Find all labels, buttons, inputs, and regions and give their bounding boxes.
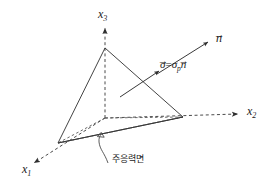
annotation-leader-line [97, 132, 108, 163]
axis-label-x1: x1 [22, 163, 31, 178]
tetrahedron-front-edge [58, 117, 183, 143]
axis-label-x2: x2 [247, 105, 256, 120]
traction-equation-label: →σ=σp→n [160, 59, 186, 73]
traction-vector-arrow [120, 71, 159, 97]
axis-label-x3: x3 [98, 8, 107, 23]
normal-vector-label: →n [216, 32, 222, 44]
n-arrow-accent: → [179, 56, 189, 66]
sigma-arrow-accent: → [158, 56, 168, 66]
figure-canvas: x1 x2 x3 →n →σ=σp→n 주응력면 [0, 0, 274, 188]
vector-arrow-accent: → [213, 29, 224, 40]
principal-plane-annotation: 주응력면 [112, 155, 144, 164]
